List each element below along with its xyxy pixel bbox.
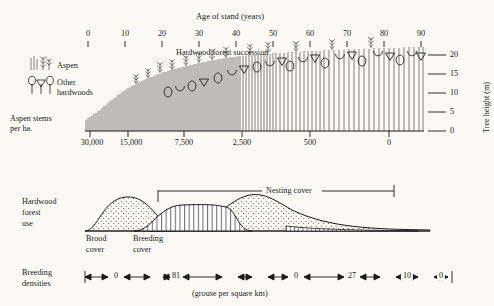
age-tick-20: 20 <box>158 29 166 38</box>
legend-icons <box>29 56 54 94</box>
succession-figure: Age of stand (years) 0 10 20 30 40 50 60… <box>0 0 494 306</box>
height-tick-20: 20 <box>450 50 458 59</box>
age-tick-40: 40 <box>232 29 240 38</box>
top-axis-title: Age of stand (years) <box>196 12 264 21</box>
stems-tick-30000: 30,000 <box>81 138 104 147</box>
stems-tick-2500: 2,500 <box>233 138 251 147</box>
grouse-units-label: (grouse per square km) <box>192 289 268 298</box>
age-tick-80: 80 <box>380 29 388 38</box>
age-tick-50: 50 <box>269 29 277 38</box>
brood-cover-label-2: cover <box>86 245 104 254</box>
height-tick-10: 10 <box>450 88 458 97</box>
breeding-densities-title-1: Breeding <box>22 268 52 277</box>
density-value-81: 81 <box>170 271 182 280</box>
density-value-0c: 0 <box>437 271 445 280</box>
age-tick-0: 0 <box>86 29 90 38</box>
density-value-27: 27 <box>346 271 358 280</box>
aspen-stand-young <box>86 47 423 131</box>
breeding-cover-label-1: Breeding <box>133 234 163 243</box>
height-tick-15: 15 <box>450 69 458 78</box>
legend-label-other-hardwoods-1: Other <box>57 78 76 87</box>
nesting-cover-label: Nesting cover <box>266 186 312 195</box>
hardwood-crowns <box>164 51 426 97</box>
age-tick-90: 90 <box>417 29 425 38</box>
breeding-densities-title-2: densities <box>22 279 51 288</box>
density-value-10: 10 <box>401 271 413 280</box>
stems-tick-500: 500 <box>304 138 316 147</box>
age-tick-30: 30 <box>195 29 203 38</box>
legend-label-other-hardwoods-2: hardwoods <box>57 88 93 97</box>
figure-canvas <box>0 0 494 306</box>
middle-panel <box>85 185 430 231</box>
stems-axis-title-1: Aspen stems <box>10 114 52 123</box>
legend-label-aspen: Aspen <box>57 61 78 70</box>
aspen-stem-icon <box>31 56 52 70</box>
stems-axis-title-2: per ha. <box>10 124 32 133</box>
breeding-density-scale <box>85 271 452 283</box>
right-axis-title: Tree height (m) <box>482 82 491 133</box>
height-tick-5: 5 <box>450 107 454 116</box>
middle-panel-title-1: Hardwood <box>22 197 57 206</box>
stems-tick-0: 0 <box>387 138 391 147</box>
density-value-0b: 0 <box>292 271 300 280</box>
succession-caption: Hardwood forest succession <box>176 48 268 57</box>
height-tick-0: 0 <box>450 126 454 135</box>
middle-panel-title-3: use <box>22 219 33 228</box>
age-tick-70: 70 <box>343 29 351 38</box>
stems-tick-7500: 7,500 <box>175 138 193 147</box>
middle-panel-title-2: forest <box>22 208 41 217</box>
density-value-0: 0 <box>112 271 120 280</box>
brood-cover-label-1: Brood <box>86 234 106 243</box>
breeding-cover-label-2: cover <box>133 245 151 254</box>
aspen-crown-tufts <box>133 37 373 84</box>
age-tick-60: 60 <box>306 29 314 38</box>
hardwood-crown-icon <box>29 76 54 94</box>
age-tick-10: 10 <box>121 29 129 38</box>
stems-tick-15000: 15,000 <box>120 138 143 147</box>
